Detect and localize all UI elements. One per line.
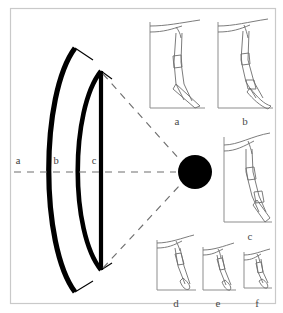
section-label-b: b (53, 155, 58, 166)
panel-c-label: c (248, 230, 253, 242)
panel-a-label: a (175, 115, 180, 127)
panel-d-label: d (173, 297, 179, 309)
center-node (178, 155, 212, 189)
figure-container: a b c (0, 0, 283, 313)
diagram-canvas: a b c (0, 0, 283, 313)
panel-f-label: f (255, 297, 259, 309)
section-label-a: a (16, 155, 21, 166)
section-label-c: c (92, 155, 97, 166)
panel-b-label: b (242, 115, 248, 127)
panel-e-label: e (216, 297, 221, 309)
